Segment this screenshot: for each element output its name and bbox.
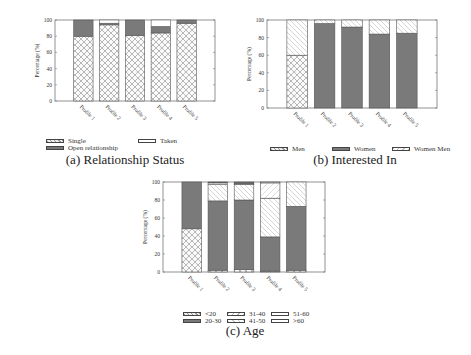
x-tick-label: Profile 2 <box>213 274 231 292</box>
bar-segment <box>397 20 418 33</box>
swatch-diagonal-icon <box>227 312 245 316</box>
bar-segment <box>287 20 308 55</box>
swatch-dark-icon <box>332 147 350 151</box>
x-tick-label: Profile 4 <box>375 110 393 128</box>
bar-segment <box>314 20 335 24</box>
legend-label: >60 <box>293 317 304 325</box>
bar-segment <box>100 25 119 101</box>
bar-segment <box>234 269 254 272</box>
bar-segment <box>286 182 306 206</box>
x-tick-label: Profile 1 <box>187 274 205 292</box>
y-tick-label: 80 <box>155 197 161 203</box>
bar-segment <box>182 229 202 272</box>
y-tick-label: 20 <box>259 87 265 93</box>
y-tick-label: 100 <box>152 179 161 185</box>
bar-segment <box>125 20 144 35</box>
bar-segment <box>369 20 390 34</box>
bar-segment <box>177 20 196 23</box>
x-tick-label: Profile 1 <box>292 110 310 128</box>
caption-b: (b) Interested In <box>290 152 420 168</box>
y-axis-label: Percentage (%) <box>142 210 149 244</box>
x-tick-label: Profile 3 <box>347 110 365 128</box>
y-tick-label: 40 <box>47 66 53 72</box>
x-tick-label: Profile 4 <box>265 274 283 292</box>
swatch-dark-icon <box>183 319 201 323</box>
swatch-dark-icon <box>46 146 64 150</box>
y-tick-label: 0 <box>49 98 52 104</box>
y-tick-label: 60 <box>259 52 265 58</box>
y-tick-label: 40 <box>259 70 265 76</box>
y-tick-label: 20 <box>47 82 53 88</box>
y-tick-label: 60 <box>47 49 53 55</box>
chart-relationship-status: 020406080100Percentage (%)Profile 1Profi… <box>0 0 235 135</box>
chart-age: 020406080100Percentage (%)Profile 1Profi… <box>120 175 350 305</box>
bar-segment <box>260 183 280 198</box>
legend-item-taken: Taken <box>138 137 177 145</box>
y-tick-label: 40 <box>155 233 161 239</box>
bar-segment <box>74 20 93 36</box>
bar-segment <box>100 20 119 23</box>
x-tick-label: Profile 5 <box>182 103 200 121</box>
bar-segment <box>286 206 306 270</box>
bar-segment <box>342 27 363 108</box>
bar-segment <box>208 185 228 201</box>
bar-segment <box>397 33 418 108</box>
x-tick-label: Profile 5 <box>292 274 310 292</box>
bar-segment <box>151 26 170 32</box>
bar-segment <box>208 201 228 270</box>
y-tick-label: 0 <box>261 105 264 111</box>
legend-label: Taken <box>160 137 177 145</box>
swatch-blank-icon <box>138 139 156 143</box>
bar-segment <box>234 185 254 200</box>
chart-b-plot: 020406080100Percentage (%)Profile 1Profi… <box>240 0 471 135</box>
caption-a: (a) Relationship Status <box>50 152 200 168</box>
swatch-crosshatch-icon <box>46 139 64 143</box>
bar-segment <box>74 36 93 101</box>
bar-segment <box>342 20 363 27</box>
bar-segment <box>151 20 170 26</box>
chart-a-plot: 020406080100Percentage (%)Profile 1Profi… <box>0 0 235 135</box>
swatch-crosshatch-icon <box>270 147 288 151</box>
x-tick-label: Profile 1 <box>79 103 97 121</box>
bar-segment <box>234 200 254 269</box>
y-tick-label: 100 <box>256 17 265 23</box>
bar-segment <box>314 24 335 108</box>
bar-segment <box>234 182 254 184</box>
swatch-diagonal-icon <box>392 147 410 151</box>
y-axis-label: Percentage (%) <box>34 43 41 77</box>
y-tick-label: 80 <box>47 33 53 39</box>
y-tick-label: 0 <box>157 269 160 275</box>
x-tick-label: Profile 3 <box>130 103 148 121</box>
legend-label: Open relationship <box>68 144 118 152</box>
y-tick-label: 80 <box>259 35 265 41</box>
bar-segment <box>260 198 280 237</box>
chart-interested-in: 020406080100Percentage (%)Profile 1Profi… <box>240 0 471 135</box>
bar-segment <box>177 23 196 101</box>
x-tick-label: Profile 3 <box>239 274 257 292</box>
caption-c: (c) Age <box>200 323 290 339</box>
bar-segment <box>125 35 144 101</box>
swatch-crosshatch-icon <box>183 312 201 316</box>
bar-segment <box>208 182 228 183</box>
y-tick-label: 100 <box>44 17 53 23</box>
bar-segment <box>260 237 280 271</box>
x-tick-label: Profile 4 <box>156 103 174 121</box>
y-tick-label: 60 <box>155 215 161 221</box>
chart-c-plot: 020406080100Percentage (%)Profile 1Profi… <box>120 175 350 305</box>
bar-segment <box>369 34 390 108</box>
y-tick-label: 20 <box>155 251 161 257</box>
bar-segment <box>151 33 170 101</box>
x-tick-label: Profile 5 <box>402 110 420 128</box>
bar-segment <box>182 182 202 229</box>
swatch-blank-icon <box>271 312 289 316</box>
x-tick-label: Profile 2 <box>320 110 338 128</box>
bar-segment <box>287 55 308 108</box>
x-tick-label: Profile 2 <box>104 103 122 121</box>
legend-item-open-relationship: Open relationship <box>46 144 118 152</box>
y-axis-label: Percentage (%) <box>246 47 253 81</box>
bar-segment <box>260 182 280 183</box>
